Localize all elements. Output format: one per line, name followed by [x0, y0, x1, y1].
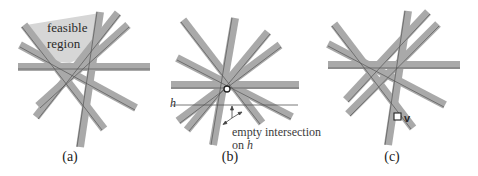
vertex-v-marker [394, 113, 401, 120]
caption-a: (a) [50, 149, 90, 165]
feasible-label-line2: region [47, 36, 87, 52]
half-plane-intersection-figure: .strip { stroke: #a9a9a9; stroke-width: … [0, 0, 478, 176]
feasible-region-label: feasible region [47, 20, 87, 52]
feasible-label-line1: feasible [47, 20, 87, 36]
caption-c: (c) [372, 149, 412, 165]
caption-b: (b) [210, 149, 250, 165]
vertex-v-label: v [404, 112, 410, 124]
common-point-marker [224, 86, 230, 92]
direction-arrows-icon [223, 106, 242, 125]
panel-c-diagram [328, 11, 460, 145]
line-h-label: h [170, 96, 176, 111]
